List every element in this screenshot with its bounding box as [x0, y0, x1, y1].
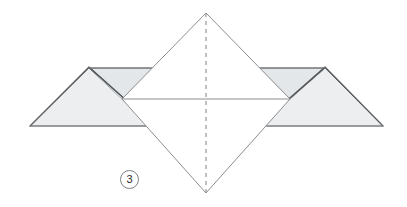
origami-diagram-svg — [0, 0, 407, 207]
step-number-badge: 3 — [120, 170, 139, 189]
origami-figure-root: 3 — [0, 0, 407, 207]
